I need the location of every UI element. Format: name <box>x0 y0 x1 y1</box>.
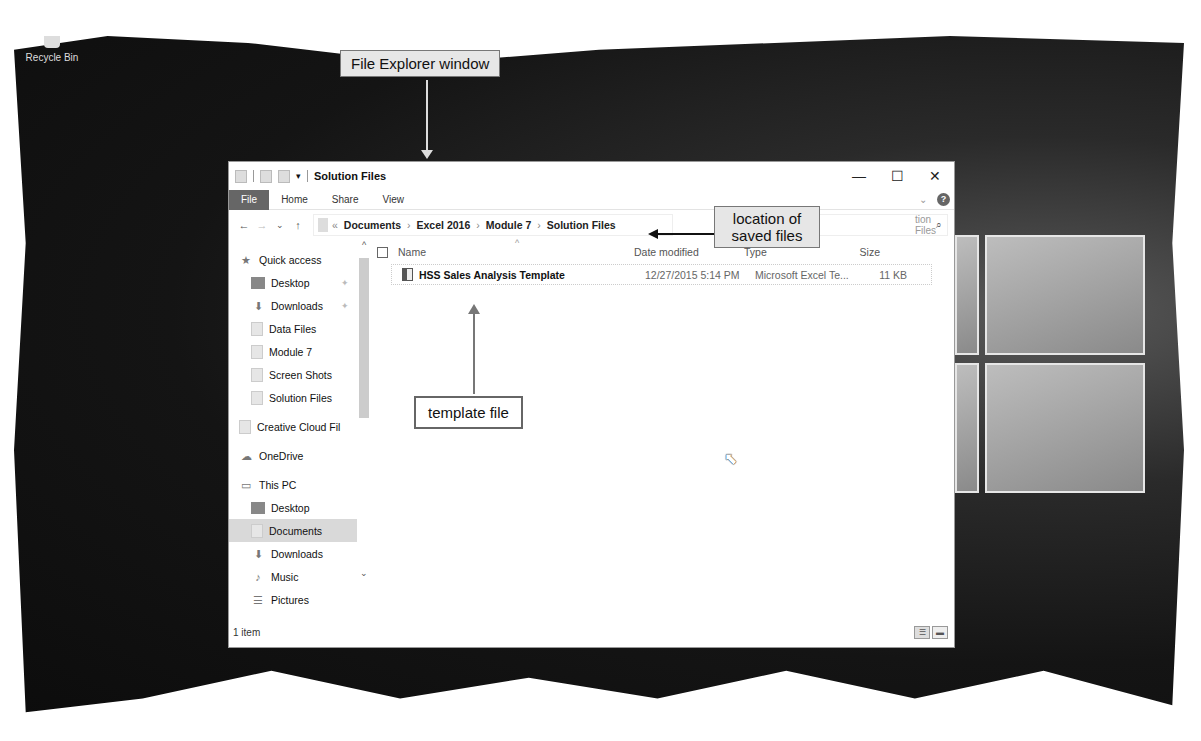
expand-ribbon-icon[interactable]: ⌄ <box>919 194 927 205</box>
nav-label: Documents <box>269 525 322 537</box>
callout-file-explorer-window: File Explorer window <box>340 50 500 77</box>
callout-arrow <box>426 80 428 156</box>
tab-home[interactable]: Home <box>269 194 320 205</box>
maximize-button[interactable]: ☐ <box>878 162 916 190</box>
breadcrumb-solution-files[interactable]: Solution Files <box>547 219 616 231</box>
arrow-head-icon <box>468 304 480 314</box>
nav-item-pictures[interactable]: ☰ Pictures <box>229 588 371 611</box>
nav-item-module-7[interactable]: Module 7 <box>229 340 371 363</box>
nav-creative-cloud[interactable]: Creative Cloud Fil <box>229 415 371 438</box>
pictures-icon: ☰ <box>251 594 265 606</box>
search-icon: ⌕ <box>936 219 942 231</box>
desktop-icon <box>251 502 265 514</box>
tab-share[interactable]: Share <box>320 194 371 205</box>
back-button[interactable]: ← <box>235 219 253 231</box>
breadcrumb-separator[interactable]: › <box>407 219 411 231</box>
nav-label: OneDrive <box>259 450 303 462</box>
file-row[interactable]: HSS Sales Analysis Template 12/27/2015 5… <box>391 264 932 285</box>
quick-access-icon[interactable] <box>278 170 290 183</box>
documents-icon <box>251 524 263 538</box>
column-headers: Name ^ Date modified Type Size <box>371 240 954 264</box>
excel-template-icon <box>402 268 413 281</box>
scroll-thumb[interactable] <box>359 258 369 418</box>
mouse-cursor-icon: ⬉ <box>724 449 737 468</box>
computer-icon: ▭ <box>239 479 253 491</box>
breadcrumb-separator[interactable]: › <box>537 219 541 231</box>
folder-icon <box>251 368 263 382</box>
item-count: 1 item <box>233 627 260 638</box>
column-size[interactable]: Size <box>844 246 900 258</box>
recent-locations-button[interactable]: ⌄ <box>271 220 289 230</box>
music-icon: ♪ <box>251 571 265 583</box>
breadcrumb-separator[interactable]: › <box>476 219 480 231</box>
search-placeholder: tion Files <box>915 214 936 236</box>
properties-icon[interactable] <box>235 170 247 183</box>
scroll-down-icon[interactable]: ⌄ <box>357 568 371 578</box>
address-row: ← → ⌄ ↑ « Documents › Excel 2016 › Modul… <box>229 210 954 240</box>
window-title: Solution Files <box>314 170 386 182</box>
separator <box>307 170 308 182</box>
nav-item-documents[interactable]: Documents <box>229 519 357 542</box>
large-icons-view-icon[interactable]: ▬ <box>932 626 948 639</box>
nav-label: Desktop <box>271 277 310 289</box>
recycle-bin[interactable]: Recycle Bin <box>22 36 82 63</box>
nav-this-pc[interactable]: ▭ This PC <box>229 473 371 496</box>
scroll-up-icon[interactable]: ^ <box>357 240 371 250</box>
callout-location-of-saved-files: location of saved files <box>714 206 820 248</box>
nav-quick-access[interactable]: ★ Quick access <box>229 248 371 271</box>
nav-label: Solution Files <box>269 392 332 404</box>
file-size: 11 KB <box>855 269 911 281</box>
forward-button[interactable]: → <box>253 219 271 231</box>
nav-item-music[interactable]: ♪ Music <box>229 565 371 588</box>
folder-icon <box>318 218 328 232</box>
nav-label: Pictures <box>271 594 309 606</box>
customize-toolbar-icon[interactable]: ▾ <box>296 171 301 181</box>
address-bar[interactable]: « Documents › Excel 2016 › Module 7 › So… <box>313 214 673 236</box>
nav-label: Data Files <box>269 323 316 335</box>
minimize-button[interactable]: — <box>840 162 878 190</box>
nav-item-data-files[interactable]: Data Files <box>229 317 371 340</box>
breadcrumb-excel-2016[interactable]: Excel 2016 <box>417 219 471 231</box>
nav-label: Downloads <box>271 548 323 560</box>
breadcrumb-module-7[interactable]: Module 7 <box>486 219 532 231</box>
nav-label: Creative Cloud Fil <box>257 421 340 433</box>
nav-label: Downloads <box>271 300 323 312</box>
recycle-bin-icon <box>44 36 60 48</box>
nav-item-screen-shots[interactable]: Screen Shots <box>229 363 371 386</box>
tab-file[interactable]: File <box>229 190 269 210</box>
nav-onedrive[interactable]: ☁ OneDrive <box>229 444 371 467</box>
select-all-checkbox[interactable] <box>377 247 388 258</box>
nav-label: Quick access <box>259 254 321 266</box>
creative-cloud-icon <box>239 420 251 434</box>
callout-template-file: template file <box>414 396 523 429</box>
nav-item-downloads[interactable]: ⬇ Downloads ✦ <box>229 294 371 317</box>
file-type: Microsoft Excel Te... <box>755 269 855 281</box>
nav-item-pc-downloads[interactable]: ⬇ Downloads <box>229 542 371 565</box>
overflow-chevron[interactable]: « <box>332 219 338 231</box>
arrow-head-icon <box>648 229 658 239</box>
navpane-scrollbar[interactable]: ^ ⌄ <box>357 240 371 618</box>
folder-icon <box>251 391 263 405</box>
pin-icon: ✦ <box>341 301 349 311</box>
breadcrumb-documents[interactable]: Documents <box>344 219 401 231</box>
folder-icon <box>251 322 263 336</box>
download-icon: ⬇ <box>251 548 265 560</box>
file-explorer-window: ▾ Solution Files — ☐ ✕ File Home Share V… <box>228 161 955 648</box>
desktop-icon <box>251 277 265 289</box>
windows-logo-wallpaper <box>955 235 1145 535</box>
details-view-icon[interactable]: ☰ <box>914 626 930 639</box>
star-icon: ★ <box>239 254 253 266</box>
new-folder-check-icon[interactable] <box>260 170 272 183</box>
title-bar: ▾ Solution Files — ☐ ✕ <box>229 162 954 190</box>
nav-item-pc-desktop[interactable]: Desktop <box>229 496 371 519</box>
close-button[interactable]: ✕ <box>916 162 954 190</box>
file-date: 12/27/2015 5:14 PM <box>645 269 755 281</box>
sort-ascending-icon: ^ <box>515 238 519 248</box>
tab-view[interactable]: View <box>371 194 417 205</box>
up-button[interactable]: ↑ <box>289 219 307 231</box>
help-icon[interactable]: ? <box>937 193 950 206</box>
callout-arrow <box>473 312 475 394</box>
search-box[interactable]: tion Files ⌕ <box>808 214 948 236</box>
nav-item-solution-files[interactable]: Solution Files <box>229 386 371 409</box>
nav-item-desktop[interactable]: Desktop ✦ <box>229 271 371 294</box>
